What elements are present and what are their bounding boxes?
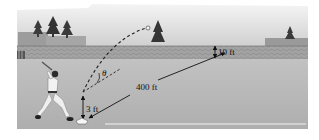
baseball-icon bbox=[146, 26, 150, 30]
fence-height-label: 10 ft bbox=[218, 47, 235, 57]
distance-label: 400 ft bbox=[136, 82, 158, 92]
field bbox=[17, 59, 308, 129]
baseball-diagram: θ 400 ft 3 ft 10 ft bbox=[0, 0, 319, 140]
batter-height-label: 3 ft bbox=[86, 104, 99, 114]
angle-label: θ bbox=[102, 68, 107, 78]
outfield-fence bbox=[17, 46, 308, 60]
